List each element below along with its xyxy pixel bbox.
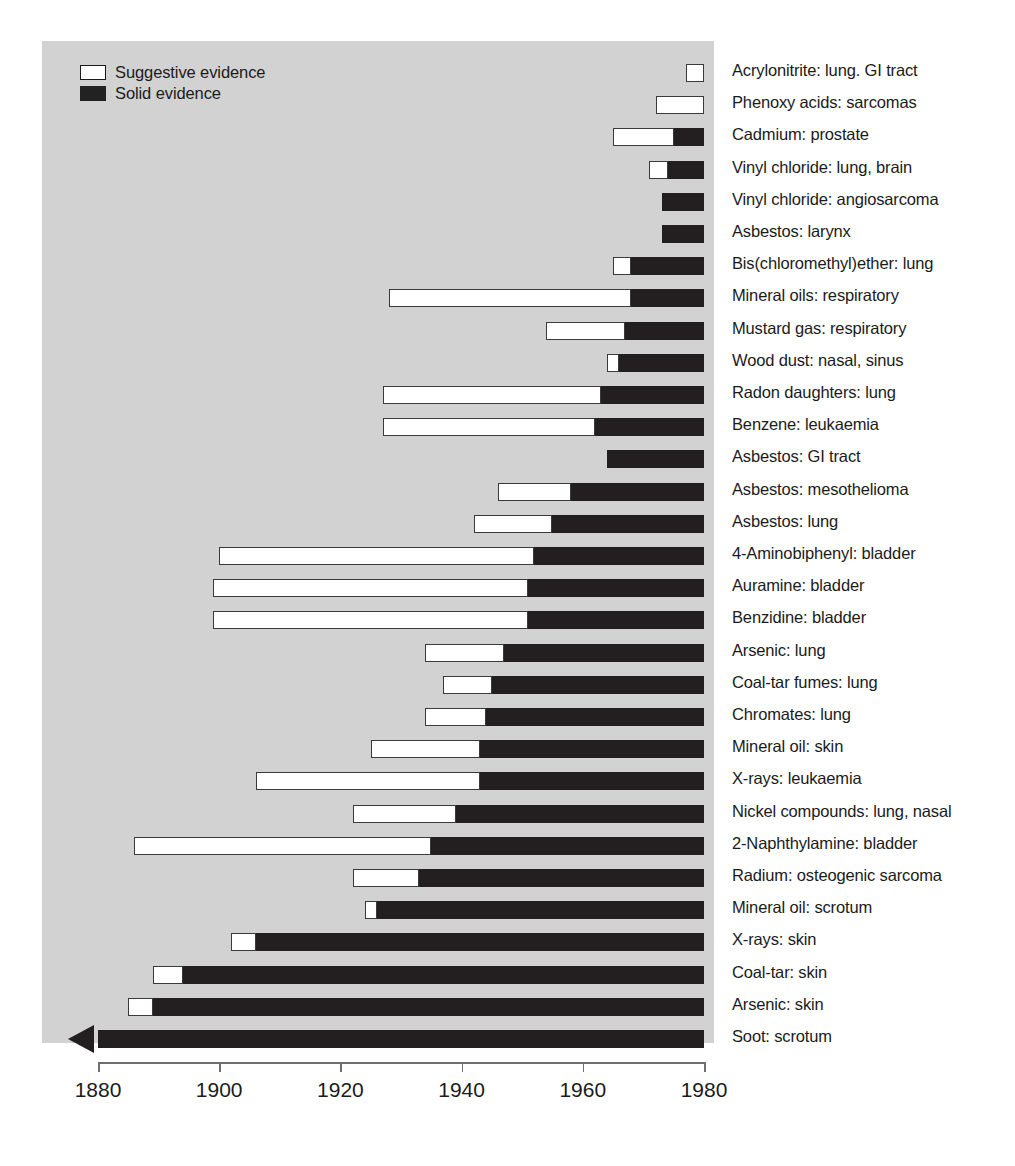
evidence-bar[interactable] bbox=[662, 193, 704, 211]
solid-evidence-segment[interactable] bbox=[619, 354, 704, 372]
table-row[interactable]: Benzidine: bladder bbox=[0, 604, 1015, 636]
table-row[interactable]: Benzene: leukaemia bbox=[0, 411, 1015, 443]
solid-evidence-segment[interactable] bbox=[631, 257, 704, 275]
table-row[interactable]: Arsenic: skin bbox=[0, 991, 1015, 1023]
suggestive-evidence-segment[interactable] bbox=[686, 64, 704, 82]
suggestive-evidence-segment[interactable] bbox=[383, 386, 601, 404]
solid-evidence-segment[interactable] bbox=[419, 869, 704, 887]
solid-evidence-segment[interactable] bbox=[153, 998, 704, 1016]
solid-evidence-segment[interactable] bbox=[607, 450, 704, 468]
solid-evidence-segment[interactable] bbox=[571, 483, 704, 501]
solid-evidence-segment[interactable] bbox=[456, 805, 704, 823]
table-row[interactable]: X-rays: skin bbox=[0, 926, 1015, 958]
suggestive-evidence-segment[interactable] bbox=[656, 96, 704, 114]
solid-evidence-segment[interactable] bbox=[486, 708, 704, 726]
table-row[interactable]: Phenoxy acids: sarcomas bbox=[0, 89, 1015, 121]
solid-evidence-segment[interactable] bbox=[528, 579, 704, 597]
suggestive-evidence-segment[interactable] bbox=[613, 257, 631, 275]
table-row[interactable]: 2-Naphthylamine: bladder bbox=[0, 830, 1015, 862]
solid-evidence-segment[interactable] bbox=[674, 128, 704, 146]
suggestive-evidence-segment[interactable] bbox=[134, 837, 431, 855]
evidence-bar[interactable] bbox=[219, 547, 704, 565]
solid-evidence-segment[interactable] bbox=[601, 386, 704, 404]
suggestive-evidence-segment[interactable] bbox=[231, 933, 255, 951]
suggestive-evidence-segment[interactable] bbox=[256, 772, 480, 790]
solid-evidence-segment[interactable] bbox=[377, 901, 704, 919]
suggestive-evidence-segment[interactable] bbox=[613, 128, 674, 146]
table-row[interactable]: Asbestos: mesothelioma bbox=[0, 476, 1015, 508]
evidence-bar[interactable] bbox=[686, 64, 704, 82]
suggestive-evidence-segment[interactable] bbox=[389, 289, 631, 307]
suggestive-evidence-segment[interactable] bbox=[607, 354, 619, 372]
suggestive-evidence-segment[interactable] bbox=[383, 418, 595, 436]
suggestive-evidence-segment[interactable] bbox=[213, 611, 528, 629]
evidence-bar[interactable] bbox=[443, 676, 704, 694]
suggestive-evidence-segment[interactable] bbox=[425, 644, 504, 662]
evidence-bar[interactable] bbox=[371, 740, 704, 758]
suggestive-evidence-segment[interactable] bbox=[128, 998, 152, 1016]
evidence-bar[interactable] bbox=[389, 289, 704, 307]
suggestive-evidence-segment[interactable] bbox=[498, 483, 571, 501]
solid-evidence-segment[interactable] bbox=[504, 644, 704, 662]
solid-evidence-segment[interactable] bbox=[492, 676, 704, 694]
table-row[interactable]: Asbestos: GI tract bbox=[0, 443, 1015, 475]
evidence-bar[interactable] bbox=[353, 869, 704, 887]
suggestive-evidence-segment[interactable] bbox=[365, 901, 377, 919]
evidence-bar[interactable] bbox=[383, 418, 704, 436]
evidence-bar[interactable] bbox=[231, 933, 704, 951]
suggestive-evidence-segment[interactable] bbox=[213, 579, 528, 597]
evidence-bar[interactable] bbox=[607, 450, 704, 468]
evidence-bar[interactable] bbox=[213, 611, 704, 629]
solid-evidence-segment[interactable] bbox=[98, 1030, 704, 1048]
table-row[interactable]: Auramine: bladder bbox=[0, 572, 1015, 604]
solid-evidence-segment[interactable] bbox=[662, 193, 704, 211]
suggestive-evidence-segment[interactable] bbox=[219, 547, 534, 565]
table-row[interactable]: Bis(chloromethyl)ether: lung bbox=[0, 250, 1015, 282]
suggestive-evidence-segment[interactable] bbox=[353, 805, 456, 823]
evidence-bar[interactable] bbox=[613, 257, 704, 275]
table-row[interactable]: X-rays: leukaemia bbox=[0, 765, 1015, 797]
table-row[interactable]: Arsenic: lung bbox=[0, 637, 1015, 669]
suggestive-evidence-segment[interactable] bbox=[474, 515, 553, 533]
solid-evidence-segment[interactable] bbox=[552, 515, 704, 533]
solid-evidence-segment[interactable] bbox=[431, 837, 704, 855]
solid-evidence-segment[interactable] bbox=[631, 289, 704, 307]
evidence-bar[interactable] bbox=[425, 644, 704, 662]
solid-evidence-segment[interactable] bbox=[668, 161, 704, 179]
evidence-bar[interactable] bbox=[128, 998, 704, 1016]
solid-evidence-segment[interactable] bbox=[595, 418, 704, 436]
solid-evidence-segment[interactable] bbox=[183, 966, 704, 984]
table-row[interactable]: Vinyl chloride: angiosarcoma bbox=[0, 186, 1015, 218]
table-row[interactable]: 4-Aminobiphenyl: bladder bbox=[0, 540, 1015, 572]
table-row[interactable]: Soot: scrotum bbox=[0, 1023, 1015, 1055]
table-row[interactable]: Mustard gas: respiratory bbox=[0, 315, 1015, 347]
evidence-bar[interactable] bbox=[498, 483, 704, 501]
solid-evidence-segment[interactable] bbox=[528, 611, 704, 629]
suggestive-evidence-segment[interactable] bbox=[153, 966, 183, 984]
suggestive-evidence-segment[interactable] bbox=[546, 322, 625, 340]
solid-evidence-segment[interactable] bbox=[480, 740, 704, 758]
solid-evidence-segment[interactable] bbox=[625, 322, 704, 340]
table-row[interactable]: Coal-tar: skin bbox=[0, 959, 1015, 991]
evidence-bar[interactable] bbox=[213, 579, 704, 597]
evidence-bar[interactable] bbox=[662, 225, 704, 243]
solid-evidence-segment[interactable] bbox=[256, 933, 704, 951]
evidence-bar[interactable] bbox=[546, 322, 704, 340]
table-row[interactable]: Asbestos: lung bbox=[0, 508, 1015, 540]
table-row[interactable]: Chromates: lung bbox=[0, 701, 1015, 733]
evidence-bar[interactable] bbox=[649, 161, 704, 179]
table-row[interactable]: Cadmium: prostate bbox=[0, 121, 1015, 153]
evidence-bar[interactable] bbox=[383, 386, 704, 404]
table-row[interactable]: Radium: osteogenic sarcoma bbox=[0, 862, 1015, 894]
evidence-bar[interactable] bbox=[474, 515, 704, 533]
suggestive-evidence-segment[interactable] bbox=[443, 676, 491, 694]
table-row[interactable]: Nickel compounds: lung, nasal bbox=[0, 798, 1015, 830]
table-row[interactable]: Acrylonitrite: lung. GI tract bbox=[0, 57, 1015, 89]
table-row[interactable]: Mineral oils: respiratory bbox=[0, 282, 1015, 314]
table-row[interactable]: Asbestos: larynx bbox=[0, 218, 1015, 250]
table-row[interactable]: Radon daughters: lung bbox=[0, 379, 1015, 411]
table-row[interactable]: Mineral oil: scrotum bbox=[0, 894, 1015, 926]
evidence-bar[interactable] bbox=[353, 805, 704, 823]
evidence-bar[interactable] bbox=[153, 966, 704, 984]
suggestive-evidence-segment[interactable] bbox=[425, 708, 486, 726]
